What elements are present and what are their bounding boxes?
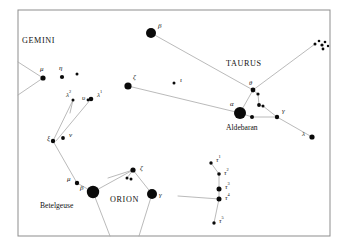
star-mu-gem[interactable] bbox=[40, 75, 45, 80]
star-label-alpha-tau: α bbox=[230, 100, 234, 108]
star-label-gamma-ori: γ bbox=[159, 191, 162, 199]
star-pleiades-3[interactable] bbox=[320, 43, 323, 46]
star-alpha-tau[interactable] bbox=[234, 107, 246, 119]
star-label-lambda-tau: λ bbox=[301, 130, 305, 138]
star-tau4[interactable] bbox=[217, 197, 222, 202]
star-pleiades-4[interactable] bbox=[324, 41, 327, 44]
constellation-name-orion: ORION bbox=[110, 195, 139, 204]
star-mu-ori[interactable] bbox=[75, 181, 79, 185]
star-label-beta-tau: β bbox=[157, 22, 162, 30]
constellation-name-gemini: GEMINI bbox=[22, 36, 55, 45]
star-proper-name-betelgeuse: Betelgeuse bbox=[40, 201, 74, 210]
star-nu-ori[interactable] bbox=[61, 136, 65, 140]
star-label-xi-ori: ξ bbox=[47, 134, 50, 142]
star-label-iota-tau: ι bbox=[180, 76, 182, 84]
star-gamma-ori[interactable] bbox=[147, 189, 157, 199]
star-tau3[interactable] bbox=[217, 187, 222, 192]
star-label-mu-gem: μ bbox=[40, 65, 44, 73]
star-theta-tau[interactable] bbox=[251, 88, 256, 93]
star-pleiades-6[interactable] bbox=[327, 45, 329, 47]
star-label-ups-ori: υ bbox=[82, 94, 85, 102]
star-xi-ori[interactable] bbox=[51, 139, 55, 143]
star-tau1[interactable] bbox=[209, 161, 212, 164]
star-label-gamma-tau: γ bbox=[282, 107, 285, 115]
star-tau2[interactable] bbox=[217, 172, 221, 176]
star-iota-tau[interactable] bbox=[173, 82, 176, 85]
sky-map-canvas: βζιαθγλμηλ2υλ1ξνμβζγτ1τ2τ3τ4τ5 GEMINITAU… bbox=[0, 0, 343, 246]
star-delta2-tau[interactable] bbox=[262, 105, 265, 108]
star-theta2-tau[interactable] bbox=[256, 92, 259, 95]
star-label-alpha-ori: β bbox=[79, 184, 84, 192]
star-tau5[interactable] bbox=[212, 221, 215, 224]
star-pleiades-5[interactable] bbox=[322, 48, 325, 51]
star-zeta-tau[interactable] bbox=[124, 82, 131, 89]
star-delta-tau[interactable] bbox=[257, 103, 261, 107]
star-pleiades-2[interactable] bbox=[318, 40, 321, 43]
star-proper-name-aldebaran: Aldebaran bbox=[226, 123, 258, 132]
star-alpha-ori[interactable] bbox=[87, 186, 99, 198]
star-eps-tau[interactable] bbox=[250, 115, 254, 119]
star-chart-figure: βζιαθγλμηλ2υλ1ξνμβζγτ1τ2τ3τ4τ5 GEMINITAU… bbox=[0, 0, 343, 246]
constellation-name-taurus: TAURUS bbox=[226, 59, 262, 68]
star-nu-gem[interactable] bbox=[76, 73, 79, 76]
star-lambda1-ori[interactable] bbox=[89, 97, 94, 102]
star-eta-gem[interactable] bbox=[60, 75, 64, 79]
star-gamma-tau[interactable] bbox=[275, 115, 279, 119]
star-chi2-ori[interactable] bbox=[126, 177, 129, 180]
star-label-eta-gem: η bbox=[59, 64, 63, 72]
star-lambda2-ori[interactable] bbox=[72, 99, 75, 102]
star-label-mu-ori: μ bbox=[67, 175, 71, 183]
star-chi3-ori[interactable] bbox=[130, 178, 133, 181]
star-pleiades-1[interactable] bbox=[314, 43, 317, 46]
star-beta-tau[interactable] bbox=[146, 28, 156, 38]
star-lambda-tau[interactable] bbox=[309, 134, 314, 139]
star-chi-ori[interactable] bbox=[130, 167, 135, 172]
